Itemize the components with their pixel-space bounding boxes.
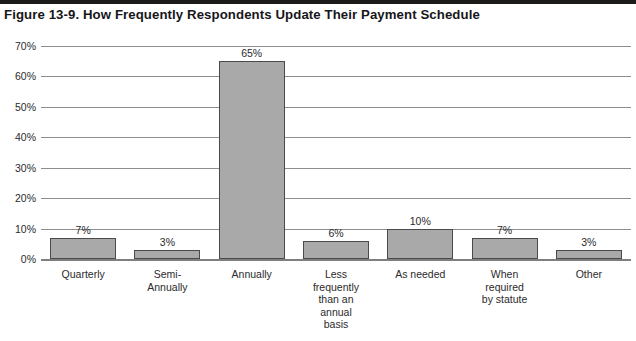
gridline — [41, 107, 631, 108]
bar — [134, 250, 200, 259]
bar — [387, 229, 453, 259]
bar-value-label: 7% — [36, 225, 130, 236]
gridline — [41, 46, 631, 47]
y-axis-tick-label: 40% — [2, 132, 36, 143]
x-axis-category-label: Less frequently than an annual basis — [294, 268, 378, 331]
x-axis-line — [41, 259, 631, 261]
x-axis-category-label: When required by statute — [462, 268, 546, 306]
bar — [50, 238, 116, 259]
bar-value-label: 65% — [205, 48, 299, 59]
x-axis-category-label: Other — [547, 268, 631, 281]
gridline — [41, 168, 631, 169]
y-axis-tick-label: 10% — [2, 224, 36, 235]
gridline — [41, 137, 631, 138]
bar — [472, 238, 538, 259]
bar-value-label: 7% — [458, 225, 552, 236]
bar-value-label: 3% — [542, 237, 636, 248]
y-axis-tick-label: 30% — [2, 163, 36, 174]
gridline — [41, 198, 631, 199]
bar — [303, 241, 369, 259]
x-axis-category-label: Quarterly — [41, 268, 125, 281]
y-axis-tick-label: 20% — [2, 193, 36, 204]
bar-value-label: 10% — [373, 216, 467, 227]
y-axis-tick-label: 50% — [2, 102, 36, 113]
x-axis-category-label: As needed — [378, 268, 462, 281]
y-axis-tick-label: 70% — [2, 41, 36, 52]
figure-container: Figure 13-9. How Frequently Respondents … — [0, 0, 636, 341]
y-axis-tick-label: 0% — [2, 254, 36, 265]
bar-value-label: 3% — [120, 237, 214, 248]
bar-value-label: 6% — [289, 228, 383, 239]
plot-area: 7%3%65%6%10%7%3% — [41, 46, 631, 259]
x-axis-category-label: Annually — [210, 268, 294, 281]
bar — [219, 61, 285, 259]
x-axis-category-label: Semi- Annually — [125, 268, 209, 293]
y-axis-tick-label: 60% — [2, 71, 36, 82]
gridline — [41, 76, 631, 77]
figure-title: Figure 13-9. How Frequently Respondents … — [4, 7, 480, 22]
bar — [556, 250, 622, 259]
page-edge-band — [0, 0, 636, 4]
